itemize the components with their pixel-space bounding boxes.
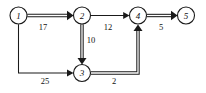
arrowhead-1-to-2 — [67, 11, 74, 20]
arrowhead-4-to-5 — [171, 11, 178, 20]
node-4: 4 — [130, 7, 147, 24]
arrowhead-3-to-4 — [134, 24, 143, 31]
edge-weight-2-3: 10 — [87, 35, 96, 45]
node-3-label: 3 — [79, 68, 85, 78]
node-5: 5 — [178, 7, 195, 24]
edge-weight-3-4: 2 — [112, 76, 116, 86]
node-3: 3 — [74, 65, 91, 82]
edge-2-to-4 — [91, 12, 130, 19]
arrowhead-2-to-3 — [78, 58, 87, 65]
graph-canvas: 17 10 12 5 25 2 1 2 3 4 5 — [0, 0, 206, 93]
edge-4-to-5 — [147, 11, 178, 20]
arrowhead-2-to-4 — [123, 12, 129, 19]
edge-weight-1-3: 25 — [41, 76, 50, 86]
edge-1-to-3 — [19, 24, 74, 76]
node-1: 1 — [10, 7, 27, 24]
edge-3-to-4 — [91, 24, 143, 73]
node-5-label: 5 — [184, 11, 189, 21]
edge-1-to-2 — [27, 11, 73, 20]
edge-weight-1-2: 17 — [39, 22, 48, 32]
network-diagram: 17 10 12 5 25 2 1 2 3 4 5 — [0, 0, 206, 93]
arrowhead-1-to-3 — [67, 69, 74, 76]
node-4-label: 4 — [136, 11, 141, 21]
edge-2-to-3 — [78, 24, 87, 64]
edge-weight-2-4: 12 — [104, 22, 113, 32]
node-1-label: 1 — [16, 11, 21, 21]
node-2-label: 2 — [80, 11, 85, 21]
edge-weight-4-5: 5 — [159, 22, 163, 32]
node-2: 2 — [74, 7, 91, 24]
